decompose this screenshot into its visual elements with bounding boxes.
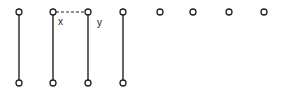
node-t8 bbox=[261, 9, 267, 15]
node-t2-x bbox=[50, 9, 56, 15]
node-t4 bbox=[120, 9, 126, 15]
node-t5 bbox=[157, 9, 163, 15]
node-t7 bbox=[226, 9, 232, 15]
label-x: x bbox=[58, 16, 63, 27]
node-b2 bbox=[50, 80, 56, 86]
label-y: y bbox=[97, 17, 102, 28]
node-t3-y bbox=[85, 9, 91, 15]
node-b3 bbox=[85, 80, 91, 86]
node-t1 bbox=[16, 9, 22, 15]
node-b1 bbox=[16, 80, 22, 86]
node-t6 bbox=[190, 9, 196, 15]
node-b4 bbox=[120, 80, 126, 86]
graph-diagram: x y bbox=[0, 0, 282, 94]
